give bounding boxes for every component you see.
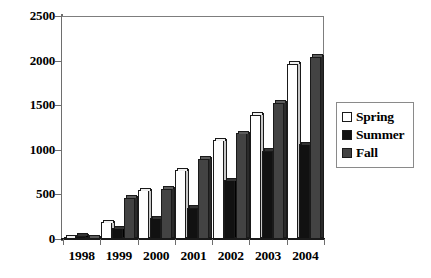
y-axis-tick-label: 1000 (5, 143, 55, 156)
bar-chart: 05001000150020002500 1998199920002001200… (0, 0, 431, 278)
bar-top-face (103, 220, 114, 223)
bar-top-face (312, 54, 323, 57)
bar-group (175, 16, 212, 239)
bar-top-face (275, 100, 286, 103)
bar-top-face (177, 168, 188, 171)
x-axis-labels: 1998199920002001200220032004 (63, 248, 324, 270)
bar-top-face (215, 138, 226, 141)
bar-front-face (250, 115, 261, 239)
x-axis-label-1998: 1998 (63, 248, 100, 264)
x-axis-tick-mark (249, 239, 250, 245)
bar-front-face (262, 151, 273, 239)
x-axis-tick-mark (175, 239, 176, 245)
bar-fall-2003 (273, 103, 284, 239)
bar-groups (63, 16, 324, 239)
bar-summer-2001 (187, 208, 198, 239)
legend-item-spring: Spring (342, 108, 409, 126)
bar-top-face (140, 188, 151, 191)
bar-summer-2003 (262, 151, 273, 239)
bar-top-face (289, 61, 300, 64)
bar-group (249, 16, 286, 239)
bar-group (100, 16, 137, 239)
x-axis-tick-mark (100, 239, 101, 245)
bar-front-face (138, 190, 149, 239)
bar-fall-2001 (198, 159, 209, 239)
bar-summer-2000 (150, 218, 161, 239)
legend-label: Fall (356, 146, 378, 160)
bar-spring-1999 (101, 222, 112, 239)
legend-swatch-spring (342, 112, 352, 122)
bar-summer-2004 (299, 144, 310, 239)
bar-front-face (287, 64, 298, 239)
bar-front-face (198, 159, 209, 239)
y-axis-tick-label: 2500 (5, 9, 55, 22)
bar-front-face (224, 180, 235, 239)
x-axis-tick-mark (324, 239, 325, 245)
bar-summer-2002 (224, 180, 235, 239)
bar-spring-2002 (213, 140, 224, 239)
legend-label: Spring (356, 110, 394, 124)
x-axis-tick-mark (63, 239, 64, 245)
y-axis-tick-label: 2000 (5, 54, 55, 67)
bar-top-face (126, 195, 137, 198)
bar-spring-2001 (175, 170, 186, 239)
bar-side-face (321, 55, 324, 237)
bar-fall-2002 (236, 133, 247, 239)
bar-spring-2000 (138, 190, 149, 239)
legend-label: Summer (356, 128, 404, 142)
x-axis-tick-mark (212, 239, 213, 245)
bar-front-face (150, 218, 161, 239)
bar-group (212, 16, 249, 239)
bar-fall-2000 (161, 189, 172, 239)
bar-fall-2004 (310, 57, 321, 239)
x-axis-tick-mark (287, 239, 288, 245)
bar-front-face (299, 144, 310, 239)
bar-top-face (163, 186, 174, 189)
bar-group (138, 16, 175, 239)
bar-top-face (238, 131, 249, 134)
x-axis-label-2003: 2003 (249, 248, 286, 264)
bar-front-face (236, 133, 247, 239)
bar-top-face (252, 112, 263, 115)
y-axis-tick-label: 1500 (5, 98, 55, 111)
x-axis-tick-mark (138, 239, 139, 245)
bar-front-face (187, 208, 198, 239)
bar-front-face (101, 222, 112, 239)
bar-front-face (161, 189, 172, 239)
y-axis: 05001000150020002500 (0, 0, 55, 278)
legend-item-summer: Summer (342, 126, 409, 144)
legend-item-fall: Fall (342, 144, 409, 162)
bar-front-face (175, 170, 186, 239)
bar-top-face (200, 156, 211, 159)
x-axis-label-1999: 1999 (100, 248, 137, 264)
x-axis-label-2002: 2002 (212, 248, 249, 264)
bar-front-face (273, 103, 284, 239)
legend-swatch-fall (342, 148, 352, 158)
legend-swatch-summer (342, 130, 352, 140)
bar-group (63, 16, 100, 239)
bar-front-face (124, 198, 135, 239)
bar-group (287, 16, 324, 239)
y-axis-tick-label: 500 (5, 187, 55, 200)
bar-front-face (310, 57, 321, 239)
bar-spring-2004 (287, 64, 298, 239)
x-axis-label-2000: 2000 (138, 248, 175, 264)
bar-top-face (77, 233, 88, 236)
bar-spring-2003 (250, 115, 261, 239)
bar-front-face (213, 140, 224, 239)
y-axis-tick-label: 0 (5, 232, 55, 245)
bar-fall-1999 (124, 198, 135, 239)
chart-legend: SpringSummerFall (336, 102, 414, 168)
x-axis-label-2004: 2004 (287, 248, 324, 264)
x-axis-label-2001: 2001 (175, 248, 212, 264)
